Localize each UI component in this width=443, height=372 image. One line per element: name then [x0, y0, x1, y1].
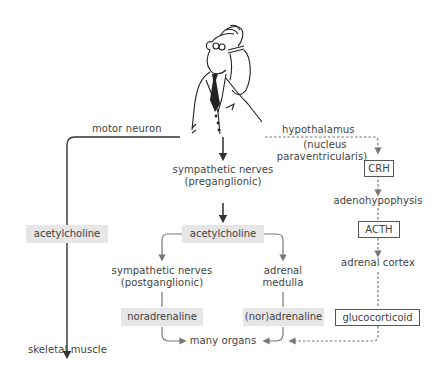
many-organs-label: many organs [188, 335, 258, 347]
acetylcholine-sympathetic-box: acetylcholine [182, 225, 264, 243]
motor-neuron-label: motor neuron [92, 123, 162, 135]
sympathetic-postganglionic-label-2: (postganglionic) [110, 277, 214, 289]
acetylcholine-motor-box: acetylcholine [26, 225, 108, 243]
paraventricularis-label: paraventricularis) [273, 151, 371, 163]
crh-box: CRH [364, 160, 394, 177]
stressed-man-icon [192, 25, 262, 134]
hypothalamus-label: hypothalamus [282, 124, 355, 136]
adrenal-medulla-label-2: medulla [255, 277, 311, 289]
skeletal-muscle-label: skeletal muscle [28, 344, 107, 356]
nucleus-label: (nucleus [280, 139, 370, 151]
stress-response-diagram: motor neuron acetylcholine skeletal musc… [0, 0, 443, 372]
sympathetic-preganglionic-label-1: sympathetic nerves [170, 164, 276, 176]
adrenal-cortex-label: adrenal cortex [338, 257, 418, 269]
adrenal-medulla-label-1: adrenal [255, 265, 311, 277]
sympathetic-postganglionic-label-1: sympathetic nerves [110, 265, 214, 277]
nor-adrenaline-box: (nor)adrenaline [243, 308, 324, 326]
acth-box: ACTH [358, 221, 400, 238]
tie-icon [210, 74, 220, 112]
sympathetic-preganglionic-label-2: (preganglionic) [170, 176, 276, 188]
adenohypophysis-label: adenohypophysis [333, 195, 423, 207]
noradrenaline-box: noradrenaline [121, 308, 203, 326]
glucocorticoid-box: glucocorticoid [335, 309, 420, 326]
